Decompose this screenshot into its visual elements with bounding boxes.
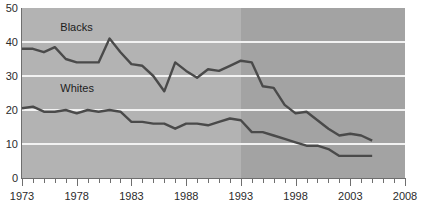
series-label-whites: Whites	[60, 83, 94, 94]
series-label-blacks: Blacks	[60, 22, 92, 33]
series-line-whites	[22, 107, 372, 156]
line-chart: 01020304050 1973197819831988199319982003…	[0, 0, 423, 208]
